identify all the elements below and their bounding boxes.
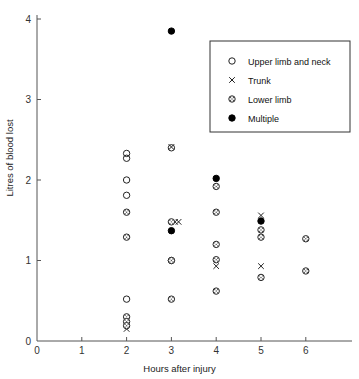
scatter-plot: 012345601234 Upper limb and neckTrunkLow… — [0, 0, 359, 379]
x-tick-label: 0 — [34, 345, 40, 356]
marker-multiple — [168, 28, 174, 34]
legend: Upper limb and neckTrunkLower limbMultip… — [210, 41, 350, 132]
marker-multiple — [168, 228, 174, 234]
marker-lower-limb — [168, 257, 174, 263]
marker-lower-limb — [303, 236, 309, 242]
marker-multiple — [258, 218, 264, 224]
legend-label: Lower limb — [248, 95, 292, 105]
y-tick-label: 3 — [25, 94, 31, 105]
y-tick-label: 1 — [25, 255, 31, 266]
x-tick-label: 4 — [213, 345, 219, 356]
marker-lower-limb — [258, 274, 264, 280]
marker-trunk — [213, 263, 219, 269]
x-tick-label: 1 — [79, 345, 85, 356]
axis-titles: Hours after injuryLitres of blood lost — [4, 119, 216, 374]
marker-upper-limb-and-neck — [168, 145, 174, 151]
x-tick-label: 3 — [169, 345, 175, 356]
marker-lower-limb — [123, 209, 129, 215]
series-upper-limb-and-neck — [123, 94, 219, 302]
y-tick-label: 0 — [25, 336, 31, 347]
x-tick-label: 2 — [124, 345, 130, 356]
marker-lower-limb — [168, 219, 174, 225]
marker-upper-limb-and-neck — [123, 192, 129, 198]
marker-upper-limb-and-neck — [123, 296, 129, 302]
marker-lower-limb — [168, 296, 174, 302]
marker-lower-limb — [213, 241, 219, 247]
marker-lower-limb — [213, 183, 219, 189]
marker-lower-limb — [213, 209, 219, 215]
marker-multiple — [213, 175, 219, 181]
y-tick-label: 4 — [25, 14, 31, 25]
y-axis-title: Litres of blood lost — [4, 119, 15, 196]
marker-upper-limb-and-neck — [123, 177, 129, 183]
marker-upper-limb-and-neck — [123, 155, 129, 161]
marker-lower-limb — [123, 323, 129, 329]
y-tick-label: 2 — [25, 175, 31, 186]
marker-lower-limb — [123, 234, 129, 240]
legend-label: Multiple — [248, 114, 279, 124]
marker-lower-limb — [213, 288, 219, 294]
marker-trunk — [258, 263, 264, 269]
x-axis-title: Hours after injury — [143, 363, 216, 374]
marker-lower-limb — [303, 268, 309, 274]
series-lower-limb — [123, 108, 309, 329]
marker-lower-limb — [258, 234, 264, 240]
marker-multiple — [229, 115, 235, 121]
x-tick-label: 6 — [303, 345, 309, 356]
legend-label: Trunk — [248, 76, 271, 86]
marker-lower-limb — [229, 96, 235, 102]
marker-trunk — [176, 219, 182, 225]
marker-lower-limb — [258, 227, 264, 233]
legend-label: Upper limb and neck — [248, 57, 331, 67]
marker-lower-limb — [213, 256, 219, 262]
series-trunk — [124, 144, 264, 332]
x-tick-label: 5 — [258, 345, 264, 356]
